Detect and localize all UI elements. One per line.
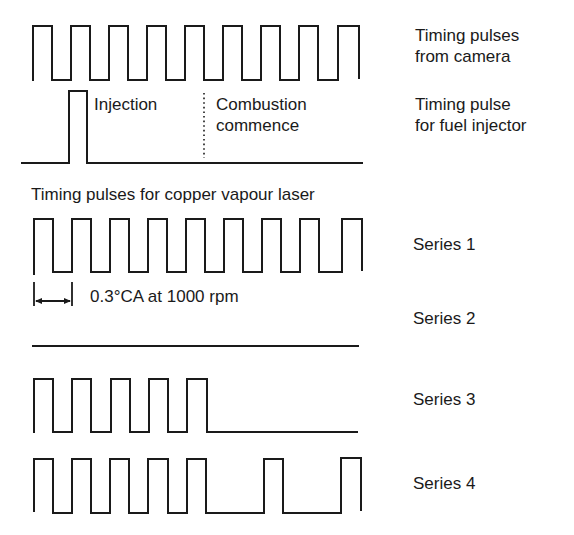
combustion-label-line2: commence [216, 115, 299, 136]
series3-pulse-train [34, 379, 357, 432]
injector-label-line1: Timing pulse [415, 94, 511, 115]
timing-diagram [0, 0, 574, 535]
dimension-label: 0.3°CA at 1000 rpm [90, 286, 239, 307]
arrowhead-right-icon [64, 298, 71, 304]
camera-label-line1: Timing pulses [415, 25, 519, 46]
series3-label: Series 3 [413, 389, 475, 410]
camera-pulse-train [33, 26, 359, 80]
series1-label: Series 1 [413, 234, 475, 255]
series4-label: Series 4 [413, 473, 475, 494]
camera-label-line2: from camera [415, 46, 510, 67]
laser-title: Timing pulses for copper vapour laser [31, 184, 315, 205]
series1-pulse-train [34, 219, 362, 274]
injector-pulse [22, 91, 362, 163]
arrowhead-left-icon [35, 298, 42, 304]
series2-label: Series 2 [413, 308, 475, 329]
injection-label: Injection [94, 94, 157, 115]
injector-label-line2: for fuel injector [415, 115, 527, 136]
series4-pulse-train [34, 458, 361, 513]
combustion-label-line1: Combustion [216, 94, 307, 115]
